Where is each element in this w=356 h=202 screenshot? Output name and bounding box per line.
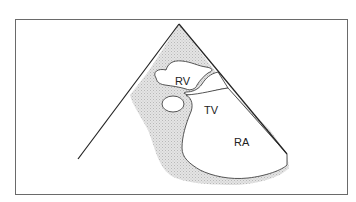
- label-ra: RA: [234, 136, 250, 148]
- label-tv: TV: [204, 104, 219, 116]
- heart-diagram: RV TV RA: [0, 0, 356, 202]
- aortic-root: [162, 96, 184, 112]
- label-rv: RV: [175, 75, 191, 87]
